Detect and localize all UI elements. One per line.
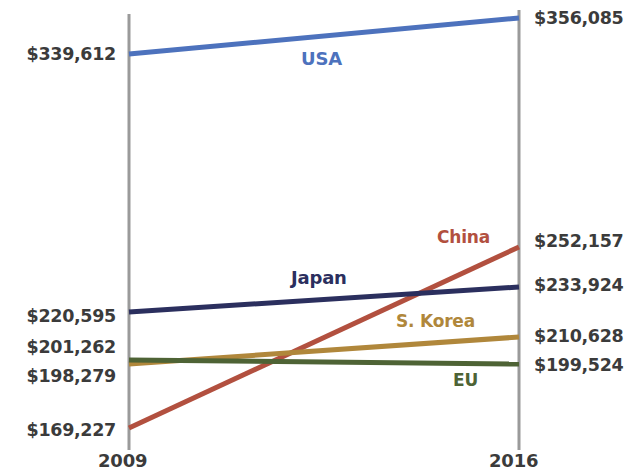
series-label-china: China <box>437 229 490 246</box>
axis-label-2009: 2009 <box>98 452 147 470</box>
series-line-eu <box>129 360 519 364</box>
left-value-japan: $220,595 <box>27 308 116 326</box>
right-value-japan: $233,924 <box>534 277 623 295</box>
left-value-eu: $201,262 <box>27 339 116 357</box>
series-label-usa: USA <box>301 50 342 68</box>
right-value-china: $252,157 <box>534 233 623 251</box>
axis-label-2016: 2016 <box>489 452 538 470</box>
series-label-japan: Japan <box>291 269 347 287</box>
left-value-china: $169,227 <box>27 422 116 440</box>
left-value-skorea: $198,279 <box>27 368 116 386</box>
left-value-usa: $339,612 <box>27 46 116 64</box>
slope-chart: $339,612 $220,595 $201,262 $198,279 $169… <box>0 0 640 476</box>
series-line-japan <box>129 287 519 312</box>
series-label-eu: EU <box>453 372 478 389</box>
series-label-skorea: S. Korea <box>396 313 475 330</box>
right-value-usa: $356,085 <box>534 10 623 28</box>
right-value-eu: $199,524 <box>534 357 623 375</box>
right-value-skorea: $210,628 <box>534 328 623 346</box>
